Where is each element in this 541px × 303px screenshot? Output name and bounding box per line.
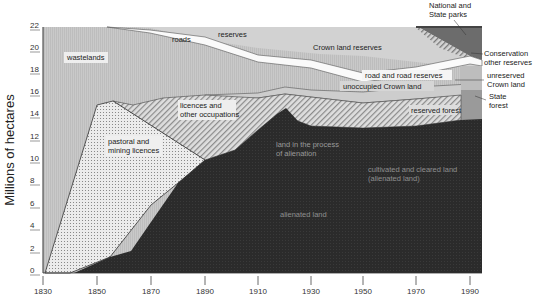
y-tick: 4 xyxy=(30,221,35,230)
label-national-parks: National and State parks xyxy=(429,1,473,19)
label-road-reserves: road and road reserves xyxy=(365,71,443,80)
label-reserves: reserves xyxy=(218,30,247,39)
y-tick: 16 xyxy=(30,87,39,96)
label-crown-land-reserves: Crown land reserves xyxy=(313,43,382,52)
x-axis-ticks: 1830 1850 1870 1890 1910 1930 1950 1970 … xyxy=(34,276,479,296)
label-roads: roads xyxy=(172,35,191,44)
x-tick: 1990 xyxy=(461,287,479,296)
area-unreserved-crown xyxy=(461,66,482,90)
y-tick: 12 xyxy=(30,132,39,141)
x-tick: 1830 xyxy=(34,287,52,296)
area-state-forest xyxy=(461,90,482,120)
label-state-forest: State forest xyxy=(489,92,509,110)
x-tick: 1870 xyxy=(142,287,160,296)
x-tick: 1970 xyxy=(407,287,425,296)
y-tick: 14 xyxy=(30,109,39,118)
label-wastelands: wastelands xyxy=(66,53,105,62)
y-axis-label: Millions of hectares xyxy=(2,94,17,206)
label-unoccupied-crown: unoccupied Crown land xyxy=(343,82,421,91)
y-tick: 6 xyxy=(30,199,35,208)
y-tick: 10 xyxy=(30,154,39,163)
y-tick: 2 xyxy=(30,244,35,253)
y-tick: 22 xyxy=(30,21,39,30)
x-tick: 1930 xyxy=(302,287,320,296)
label-alienated: alienated land xyxy=(280,210,327,219)
y-tick: 18 xyxy=(30,65,39,74)
y-tick: 0 xyxy=(30,266,35,275)
y-tick: 20 xyxy=(30,43,39,52)
label-unreserved-crown: unreserved Crown land xyxy=(487,71,527,89)
x-tick: 1950 xyxy=(354,287,372,296)
y-axis-ticks: 0 2 4 6 8 10 12 14 16 18 20 22 xyxy=(30,21,40,275)
x-tick: 1910 xyxy=(249,287,267,296)
y-tick: 8 xyxy=(30,176,35,185)
label-reserved-forest: reserved forest xyxy=(411,106,462,115)
x-tick: 1890 xyxy=(196,287,214,296)
label-conservation: Conservation other reserves xyxy=(484,49,532,67)
land-use-area-chart: Millions of hectares 0 2 4 6 8 10 12 14 … xyxy=(0,0,541,303)
x-tick: 1850 xyxy=(88,287,106,296)
